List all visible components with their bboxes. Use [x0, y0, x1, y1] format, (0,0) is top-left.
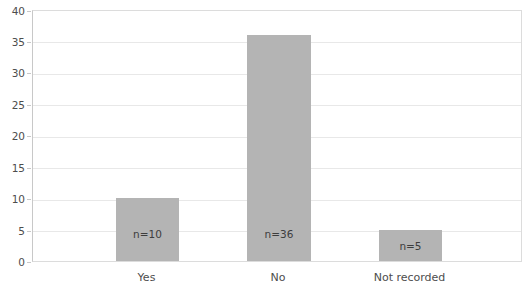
y-tick-mark-20 [27, 136, 31, 137]
y-tick-label-35: 35 [12, 37, 25, 48]
y-tick-label-20: 20 [12, 131, 25, 142]
plot-area: n=10 n=36 n=5 [32, 10, 522, 262]
y-tick-mark-15 [27, 168, 31, 169]
x-category-label-no: No [216, 272, 340, 283]
y-tick-label-0: 0 [18, 257, 25, 268]
y-tick-label-15: 15 [12, 163, 25, 174]
y-tick-mark-35 [27, 42, 31, 43]
y-tick-label-5: 5 [18, 226, 25, 237]
y-tick-label-40: 40 [12, 6, 25, 17]
y-axis: 0 5 10 15 20 25 30 35 40 [0, 0, 31, 294]
y-tick-mark-40 [27, 11, 31, 12]
bar-yes[interactable]: n=10 [116, 198, 179, 261]
y-tick-mark-10 [27, 199, 31, 200]
bar-value-label-not-recorded: n=5 [379, 241, 442, 252]
y-tick-mark-5 [27, 231, 31, 232]
bar-chart: 0 5 10 15 20 25 30 35 40 n=10 n=36 [0, 0, 531, 294]
x-category-label-yes: Yes [85, 272, 208, 283]
bar-value-label-yes: n=10 [116, 229, 179, 240]
bar-no[interactable]: n=36 [247, 35, 311, 261]
y-tick-label-30: 30 [12, 68, 25, 79]
y-tick-mark-30 [27, 73, 31, 74]
bar-not-recorded[interactable]: n=5 [379, 230, 442, 261]
x-category-label-not-recorded: Not recorded [348, 272, 471, 283]
y-tick-mark-0 [27, 262, 31, 263]
y-tick-label-10: 10 [12, 194, 25, 205]
y-tick-mark-25 [27, 105, 31, 106]
bar-value-label-no: n=36 [247, 229, 311, 240]
y-tick-label-25: 25 [12, 100, 25, 111]
